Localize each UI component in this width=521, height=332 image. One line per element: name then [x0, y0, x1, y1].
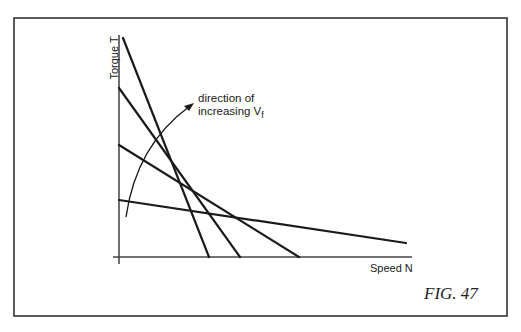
annotation-line-2: increasing Vf	[198, 105, 264, 122]
annotation-line-1: direction of	[198, 92, 254, 105]
characteristic-line-3	[119, 145, 299, 257]
x-axis-label: Speed N	[370, 262, 413, 274]
y-axis-label: Torque T	[108, 36, 120, 80]
annotation-main-text: increasing V	[198, 105, 261, 117]
figure-canvas	[0, 0, 521, 332]
characteristic-line-4	[119, 200, 406, 243]
annotation-subscript: f	[261, 110, 264, 120]
figure-frame	[14, 18, 507, 316]
figure-caption: FIG. 47	[424, 284, 478, 304]
characteristic-line-1	[123, 38, 209, 257]
direction-arrow-curve	[126, 106, 190, 217]
